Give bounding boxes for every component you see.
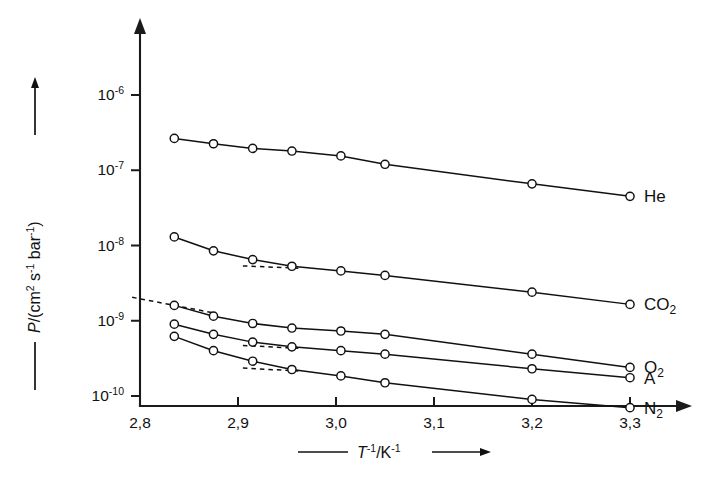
x-tick-label: 3,3 bbox=[619, 414, 641, 431]
data-point-marker bbox=[170, 233, 178, 241]
data-point-marker bbox=[209, 347, 217, 355]
data-point-marker bbox=[288, 147, 296, 155]
data-point-marker bbox=[381, 350, 389, 358]
x-tick-label: 2,8 bbox=[129, 414, 151, 431]
data-point-marker bbox=[170, 332, 178, 340]
data-point-marker bbox=[626, 300, 634, 308]
data-point-marker bbox=[381, 271, 389, 279]
data-point-marker bbox=[209, 330, 217, 338]
data-point-marker bbox=[528, 395, 536, 403]
data-point-marker bbox=[288, 343, 296, 351]
data-point-marker bbox=[249, 357, 257, 365]
data-point-marker bbox=[209, 247, 217, 255]
data-point-marker bbox=[626, 363, 634, 371]
data-point-marker bbox=[209, 312, 217, 320]
x-tick-label: 3,1 bbox=[423, 414, 445, 431]
series-label-a: A bbox=[644, 369, 656, 388]
data-point-marker bbox=[337, 327, 345, 335]
data-point-marker bbox=[337, 347, 345, 355]
data-point-marker bbox=[288, 365, 296, 373]
data-point-marker bbox=[170, 320, 178, 328]
data-point-marker bbox=[249, 338, 257, 346]
data-point-marker bbox=[170, 301, 178, 309]
data-point-marker bbox=[337, 267, 345, 275]
data-point-marker bbox=[528, 350, 536, 358]
data-point-marker bbox=[288, 324, 296, 332]
data-point-marker bbox=[381, 379, 389, 387]
data-point-marker bbox=[626, 404, 634, 412]
data-point-marker bbox=[249, 255, 257, 263]
data-point-marker bbox=[288, 262, 296, 270]
data-point-marker bbox=[528, 180, 536, 188]
x-tick-label: 2,9 bbox=[227, 414, 249, 431]
data-point-marker bbox=[170, 134, 178, 142]
data-point-marker bbox=[381, 330, 389, 338]
data-point-marker bbox=[209, 140, 217, 148]
data-point-marker bbox=[249, 319, 257, 327]
data-point-marker bbox=[528, 365, 536, 373]
x-tick-label: 3,2 bbox=[521, 414, 543, 431]
permeability-arrhenius-chart: 2,82,93,03,13,23,3 10-610-710-810-910-10… bbox=[0, 0, 725, 481]
data-point-marker bbox=[626, 374, 634, 382]
data-point-marker bbox=[337, 372, 345, 380]
data-point-marker bbox=[528, 288, 536, 296]
data-point-marker bbox=[626, 192, 634, 200]
figure-container: 2,82,93,03,13,23,3 10-610-710-810-910-10… bbox=[0, 0, 725, 481]
data-point-marker bbox=[337, 152, 345, 160]
data-point-marker bbox=[249, 144, 257, 152]
series-label-he: He bbox=[644, 187, 666, 206]
y-axis-title-text: P/(cm2 s-1 bar-1) bbox=[24, 221, 43, 333]
data-point-marker bbox=[381, 160, 389, 168]
x-tick-label: 3,0 bbox=[325, 414, 347, 431]
